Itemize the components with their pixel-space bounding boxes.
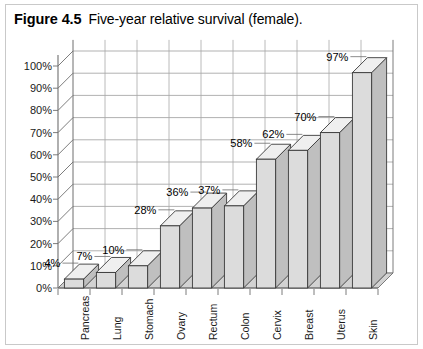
bar-value-label: 10% [102, 244, 124, 256]
bar-value-label: 28% [134, 204, 156, 216]
bar-value-label: 70% [294, 111, 316, 123]
bar-value-label: 36% [166, 186, 188, 198]
bar-value-label: 58% [230, 137, 252, 149]
bar-value-label: 37% [198, 184, 220, 196]
bar-value-label: 4% [44, 257, 60, 269]
bar-value-label: 7% [76, 250, 92, 262]
figure-container: Figure 4.5Five-year relative survival (f… [0, 0, 423, 349]
bar-value-labels: 4%7%10%28%36%37%58%62%70%97% [0, 0, 423, 349]
bar-value-label: 62% [262, 128, 284, 140]
bar-value-label: 97% [326, 51, 348, 63]
